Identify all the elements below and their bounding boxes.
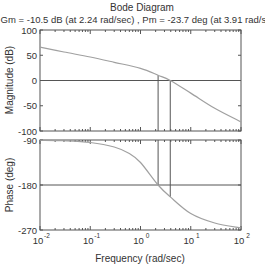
phase-curve [40,140,241,228]
xtick-label-exponent: 2 [246,232,250,239]
chart-title: Bode Diagram [110,2,174,13]
chart-subtitle: Gm = -10.5 dB (at 2.24 rad/sec) , Pm = -… [1,14,265,25]
xtick-label-exponent: -1 [94,232,100,239]
x-axis-label: Frequency (rad/sec) [95,253,184,264]
phase-ytick-label: -270 [18,225,37,236]
magnitude-ytick-label: 50 [26,50,37,61]
xtick-label: 10 [133,235,144,246]
magnitude-curve [40,47,241,122]
xtick-label: 10 [33,235,44,246]
xtick-label: 10 [183,235,194,246]
bode-chart: Bode Diagram Gm = -10.5 dB (at 2.24 rad/… [0,0,265,271]
magnitude-ytick-label: 100 [21,25,37,36]
xtick-label: 10 [234,235,245,246]
magnitude-y-label: Magnitude (dB) [4,46,15,114]
phase-ytick-label: -90 [23,135,37,146]
magnitude-ytick-label: -50 [23,100,37,111]
phase-ytick-label: -180 [18,180,37,191]
xtick-label-exponent: 1 [196,232,200,239]
xtick-label-exponent: -2 [44,232,50,239]
xtick-label-exponent: 0 [146,232,150,239]
xtick-label: 10 [83,235,94,246]
magnitude-ytick-label: 0 [32,75,37,86]
phase-y-label: Phase (deg) [4,158,15,212]
